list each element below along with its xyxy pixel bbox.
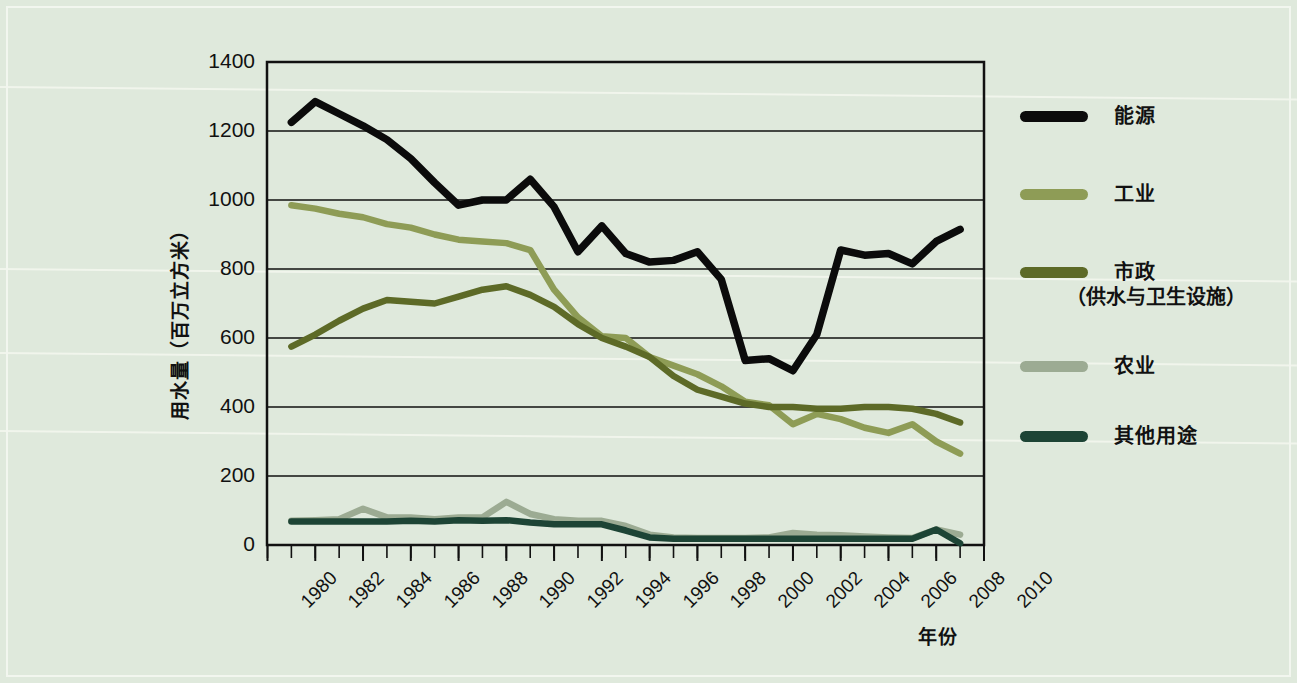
legend-label: 农业 [1114, 354, 1156, 379]
legend-swatch [1020, 111, 1088, 122]
legend-item[interactable]: 能源 [1020, 104, 1156, 129]
x-axis-title: 年份 [918, 622, 958, 649]
series-line [291, 286, 960, 422]
legend-item[interactable]: 工业 [1020, 182, 1156, 207]
legend-label: 市政（供水与卫生设施） [1114, 260, 1246, 310]
series-line [291, 102, 960, 371]
y-tick-label: 400 [185, 394, 255, 418]
series-line [291, 205, 960, 453]
legend-label: 其他用途 [1114, 424, 1198, 449]
y-axis-title: 用水量（百万立方米） [165, 220, 192, 420]
legend-swatch [1020, 361, 1088, 372]
legend-label: 工业 [1114, 182, 1156, 207]
legend-swatch [1020, 431, 1088, 442]
chart-page: 用水量（百万立方米） 0200400600800100012001400 198… [0, 0, 1297, 683]
y-tick-label: 0 [185, 532, 255, 556]
y-tick-label: 1200 [185, 118, 255, 142]
y-tick-label: 1000 [185, 187, 255, 211]
legend-label: 能源 [1114, 104, 1156, 129]
legend-item[interactable]: 其他用途 [1020, 424, 1198, 449]
y-tick-label: 200 [185, 463, 255, 487]
legend-swatch [1020, 267, 1088, 278]
y-tick-label: 600 [185, 325, 255, 349]
y-tick-label: 1400 [185, 49, 255, 73]
legend-swatch [1020, 189, 1088, 200]
y-tick-label: 800 [185, 256, 255, 280]
x-minor-ticks [268, 545, 985, 558]
legend-sublabel: （供水与卫生设施） [1066, 285, 1246, 310]
legend-item[interactable]: 市政（供水与卫生设施） [1020, 260, 1246, 310]
series-lines [291, 102, 960, 544]
legend-item[interactable]: 农业 [1020, 354, 1156, 379]
